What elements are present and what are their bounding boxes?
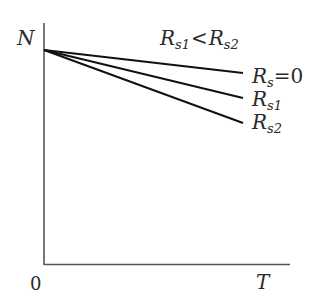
cond-r1-main: R: [159, 26, 175, 50]
label-rs2-main: R: [251, 110, 267, 134]
label-rs1-main: R: [251, 87, 267, 111]
speed-torque-diagram: N T 0 Rs1<Rs2 Rs=0 Rs1 Rs2: [0, 0, 319, 303]
condition-label: Rs1<Rs2: [159, 26, 239, 52]
label-rs-zero-main: R: [251, 64, 267, 88]
label-rs1-sub: s1: [267, 98, 282, 113]
svg-text:Rs1<Rs2: Rs1<Rs2: [159, 26, 239, 52]
svg-text:Rs2: Rs2: [251, 110, 282, 136]
origin-label: 0: [30, 273, 41, 294]
label-rs-zero-suffix: =0: [274, 64, 303, 88]
cond-r2-main: R: [208, 26, 224, 50]
line-rs1: [44, 50, 243, 98]
label-rs2: Rs2: [251, 110, 282, 136]
label-rs2-sub: s2: [267, 121, 282, 136]
y-axis-label: N: [16, 26, 36, 50]
cond-operator: <: [191, 26, 208, 50]
cond-r2-sub: s2: [224, 37, 239, 52]
cond-r1-sub: s1: [175, 37, 190, 52]
x-axis-label: T: [256, 270, 271, 294]
